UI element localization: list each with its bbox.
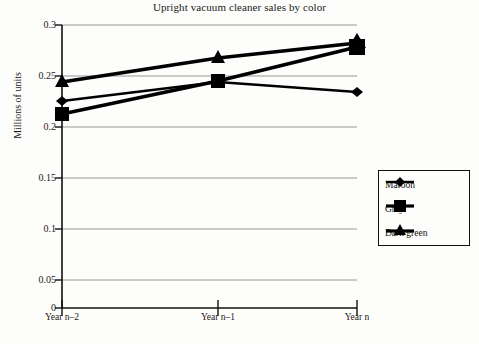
diamond-marker-icon: [385, 175, 415, 189]
legend-item-maroon: Maroon: [385, 175, 467, 195]
y-axis-ticks: [55, 25, 62, 308]
x-tick-label: Year n–2: [45, 312, 79, 323]
x-tick-label: Year n–1: [201, 312, 235, 323]
legend-item-dark-green: Dark green: [385, 223, 467, 243]
markers-gray: [55, 39, 365, 121]
legend-item-gray: Gray: [385, 199, 467, 219]
series-gray: [62, 47, 357, 114]
square-marker-icon: [385, 199, 415, 213]
gridlines: [62, 25, 357, 280]
chart-legend: Maroon Gray Dark green: [378, 170, 470, 246]
x-tick-label: Year n: [345, 312, 370, 323]
axis-lines: [62, 25, 357, 308]
series-maroon: [62, 82, 357, 101]
triangle-marker-icon: [385, 223, 415, 237]
chart-figure: Upright vacuum cleaner sales by color Mi…: [0, 0, 479, 344]
